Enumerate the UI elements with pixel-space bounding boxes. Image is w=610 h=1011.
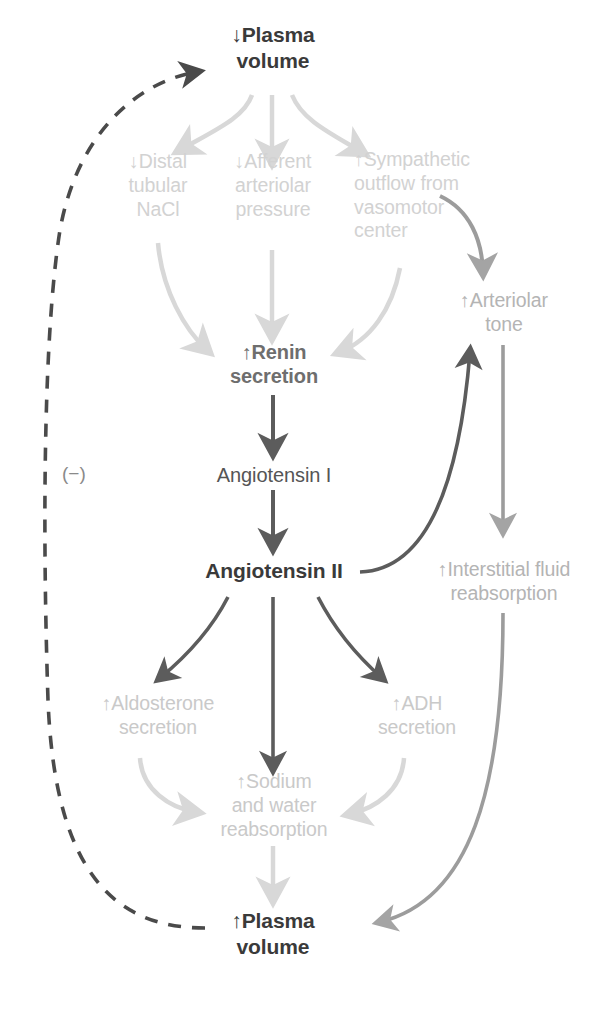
node-distal-tubular-nacl: ↓Distal tubular NaCl xyxy=(98,150,218,221)
diagram-canvas: ↓Plasma volume ↓Distal tubular NaCl ↓Aff… xyxy=(0,0,610,1011)
edge-angiotensin-ii-to-arteriolar-tone xyxy=(360,352,470,572)
edge-interstitial-to-plasma-up xyxy=(380,613,503,922)
edge-plasma-down-to-distal-nacl xyxy=(180,95,252,150)
node-plasma-volume-down: ↓Plasma volume xyxy=(193,22,353,73)
node-angiotensin-i: Angiotensin I xyxy=(193,463,355,487)
node-afferent-arteriolar-pressure: ↓Afferent arteriolar pressure xyxy=(212,150,334,221)
node-aldosterone-secretion: ↑Aldosterone secretion xyxy=(78,692,238,740)
node-angiotensin-ii: Angiotensin II xyxy=(178,558,370,584)
negative-feedback-sign: (−) xyxy=(62,463,86,485)
edge-adh-to-sodium-water xyxy=(350,758,404,814)
node-sodium-water-reabsorption: ↑Sodium and water reabsorption xyxy=(192,770,356,841)
node-plasma-volume-up: ↑Plasma volume xyxy=(193,908,353,959)
edge-plasma-down-to-sympathetic xyxy=(292,95,362,152)
edge-distal-nacl-to-renin xyxy=(158,243,207,350)
edge-aldosterone-to-sodium-water xyxy=(140,758,196,812)
node-adh-secretion: ↑ADH secretion xyxy=(350,692,484,740)
edge-angiotensin-ii-to-adh xyxy=(318,597,382,678)
edge-angiotensin-ii-to-aldosterone xyxy=(160,597,228,678)
edge-sympathetic-to-renin xyxy=(340,268,400,352)
node-renin-secretion: ↑Renin secretion xyxy=(203,340,345,389)
node-arteriolar-tone: ↑Arteriolar tone xyxy=(436,289,572,337)
node-interstitial-fluid-reabsorption: ↑Interstitial fluid reabsorption xyxy=(411,558,597,606)
node-sympathetic-outflow: ↑Sympathetic outflow from vasomotor cent… xyxy=(354,148,504,243)
